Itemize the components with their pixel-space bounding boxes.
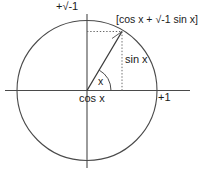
angle-x-label: x	[98, 76, 103, 87]
sin-x-label: sin x	[125, 54, 148, 65]
unit-circle-diagram: +√-1 [cos x + √-1 sin x] sin x cos x +1 …	[0, 0, 211, 170]
imaginary-axis-label: +√-1	[56, 1, 78, 12]
real-axis-label: +1	[158, 92, 171, 103]
cos-x-label: cos x	[79, 93, 105, 104]
point-expression-label: [cos x + √-1 sin x]	[116, 14, 198, 25]
diagram-canvas	[0, 0, 211, 170]
radius-vector-line	[87, 32, 122, 91]
